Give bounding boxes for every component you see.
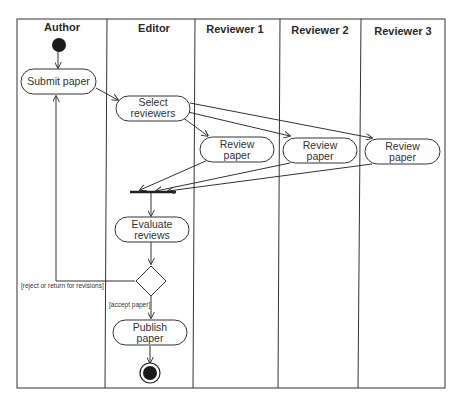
final-node (140, 363, 160, 383)
initial-node (52, 38, 66, 52)
edge-review3-join (168, 164, 372, 191)
lane-title-reviewer-3: Reviewer 3 (374, 25, 431, 37)
action-label: Submit paper (27, 75, 90, 87)
edge-review2-join (156, 163, 290, 191)
lane-divider (358, 19, 361, 388)
action-label-line2: paper (389, 151, 416, 163)
action-review-paper-3: Review paper (365, 139, 440, 164)
guard-reject: [reject or return for revisions] (21, 282, 104, 290)
action-publish-paper: Publish paper (113, 320, 187, 345)
guard-accept: [accept paper] (109, 301, 150, 309)
edge-select-review1 (182, 117, 208, 136)
lane-divider (193, 19, 195, 388)
action-label-line2: paper (224, 149, 251, 161)
edge-decision-submit (56, 96, 135, 281)
lane-title-reviewer-1: Reviewer 1 (206, 23, 263, 35)
decision-node (136, 266, 166, 296)
lane-divider (278, 19, 280, 388)
action-evaluate-reviews: Evaluate reviews (115, 217, 189, 242)
lane-title-editor: Editor (138, 22, 170, 34)
lane-title-reviewer-2: Reviewer 2 (291, 24, 348, 36)
lane-title-author: Author (44, 21, 81, 33)
edges (56, 52, 372, 363)
action-label-line2: reviews (134, 229, 170, 241)
action-label-line2: paper (137, 332, 164, 344)
action-select-reviewers: Select reviewers (116, 96, 190, 121)
edge-review1-join (140, 160, 208, 190)
action-review-paper-1: Review paper (200, 137, 274, 162)
action-review-paper-2: Review paper (283, 138, 357, 163)
lane-divider (105, 19, 107, 388)
action-submit-paper: Submit paper (21, 69, 96, 94)
action-label-line2: reviewers (131, 107, 176, 119)
edge-select-review3 (190, 103, 372, 138)
action-label-line2: paper (307, 150, 334, 162)
activity-diagram: Author Editor Reviewer 1 Reviewer 2 Revi… (0, 0, 459, 404)
